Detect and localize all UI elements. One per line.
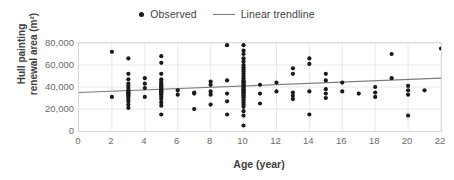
data-point xyxy=(192,107,196,111)
data-point xyxy=(274,81,278,85)
data-point xyxy=(324,92,328,96)
y-axis-tick-label: 20,000 xyxy=(28,103,74,114)
data-point xyxy=(159,54,163,58)
data-point xyxy=(406,93,410,97)
data-point xyxy=(241,123,245,127)
x-axis-title: Age (year) xyxy=(78,158,440,170)
data-points xyxy=(110,43,441,128)
data-point xyxy=(258,83,262,87)
data-point xyxy=(422,88,426,92)
data-point xyxy=(406,114,410,118)
x-axis-tick-label: 22 xyxy=(435,135,446,146)
data-point xyxy=(406,88,410,92)
legend-item-trendline: Linear trendline xyxy=(213,8,315,20)
data-point xyxy=(291,72,295,76)
data-point xyxy=(274,89,278,93)
data-point xyxy=(176,88,180,92)
data-point xyxy=(225,43,229,47)
data-point xyxy=(126,106,130,110)
gridlines xyxy=(79,43,441,131)
y-axis-tick-labels: 020,00040,00060,00080,000 xyxy=(26,0,74,180)
legend-marker-line-icon xyxy=(213,14,235,15)
x-axis-tick-label: 2 xyxy=(108,135,113,146)
data-point xyxy=(225,112,229,116)
data-point xyxy=(143,82,147,86)
data-point xyxy=(241,43,245,47)
data-point xyxy=(307,56,311,60)
data-point xyxy=(340,81,344,85)
data-point xyxy=(159,112,163,116)
data-point xyxy=(324,72,328,76)
data-point xyxy=(159,61,163,65)
x-axis-tick-label: 18 xyxy=(369,135,380,146)
data-point xyxy=(390,76,394,80)
data-point xyxy=(373,90,377,94)
data-point xyxy=(291,66,295,70)
plot-area xyxy=(78,42,442,132)
x-axis-tick-label: 6 xyxy=(174,135,179,146)
chart-figure: Observed Linear trendline Hull painting … xyxy=(0,0,454,180)
data-point xyxy=(209,83,213,87)
x-axis-tick-label: 14 xyxy=(303,135,314,146)
data-point xyxy=(110,95,114,99)
data-point xyxy=(373,95,377,99)
data-point xyxy=(324,96,328,100)
data-point xyxy=(110,50,114,54)
data-point xyxy=(192,92,196,96)
data-point xyxy=(159,104,163,108)
x-axis-tick-label: 0 xyxy=(75,135,80,146)
data-point xyxy=(143,95,147,99)
data-point xyxy=(126,72,130,76)
data-point xyxy=(209,103,213,107)
data-point xyxy=(225,99,229,103)
data-point xyxy=(126,56,130,60)
data-point xyxy=(176,93,180,97)
x-axis-tick-label: 20 xyxy=(402,135,413,146)
data-point xyxy=(406,84,410,88)
x-axis-tick-label: 12 xyxy=(270,135,281,146)
legend-label-trendline: Linear trendline xyxy=(241,8,315,20)
y-axis-tick-label: 60,000 xyxy=(28,59,74,70)
x-axis-tick-label: 10 xyxy=(237,135,248,146)
data-point xyxy=(307,89,311,93)
y-axis-tick-label: 80,000 xyxy=(28,37,74,48)
legend-marker-dot-icon xyxy=(139,12,144,17)
data-point xyxy=(258,92,262,96)
data-point xyxy=(324,78,328,82)
data-point xyxy=(340,89,344,93)
data-point xyxy=(258,101,262,105)
data-point xyxy=(324,87,328,91)
y-axis-tick-label: 0 xyxy=(28,125,74,136)
data-point xyxy=(225,78,229,82)
data-point xyxy=(241,109,245,113)
x-axis-tick-label: 16 xyxy=(336,135,347,146)
data-point xyxy=(126,77,130,81)
y-axis-tick-label: 40,000 xyxy=(28,81,74,92)
data-point xyxy=(307,112,311,116)
legend-label-observed: Observed xyxy=(150,8,196,20)
data-point xyxy=(357,92,361,96)
data-point xyxy=(241,52,245,56)
data-point xyxy=(307,62,311,66)
legend-item-observed: Observed xyxy=(139,8,196,20)
data-point xyxy=(159,72,163,76)
x-axis-tick-label: 8 xyxy=(207,135,212,146)
x-axis-tick-label: 4 xyxy=(141,135,146,146)
data-point xyxy=(291,97,295,101)
data-point xyxy=(209,93,213,97)
data-point xyxy=(143,76,147,80)
data-point xyxy=(241,105,245,109)
data-point xyxy=(390,52,394,56)
data-point xyxy=(225,92,229,96)
data-point xyxy=(439,46,441,50)
data-point xyxy=(373,85,377,89)
data-point xyxy=(241,114,245,118)
plot-canvas xyxy=(79,43,441,131)
data-point xyxy=(143,86,147,90)
